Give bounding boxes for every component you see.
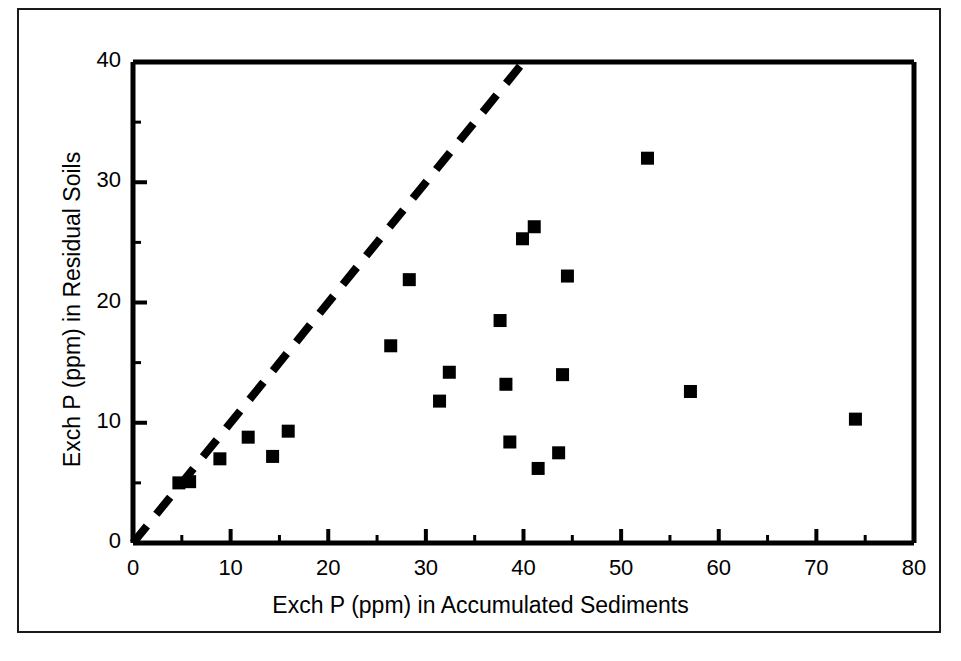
x-tick-label-30: 30 xyxy=(396,555,456,581)
x-tick-label-50: 50 xyxy=(591,555,651,581)
plot-axes xyxy=(133,62,914,543)
data-point-4 xyxy=(266,450,279,463)
data-point-20 xyxy=(684,385,697,398)
x-tick-label-70: 70 xyxy=(786,555,846,581)
figure-container: 01020304050607080010203040 Exch P (ppm) … xyxy=(0,0,961,661)
data-point-18 xyxy=(561,270,574,283)
x-tick-label-20: 20 xyxy=(298,555,358,581)
data-point-16 xyxy=(552,446,565,459)
x-tick-label-40: 40 xyxy=(494,555,554,581)
y-axis-title: Exch P (ppm) in Residual Soils xyxy=(59,50,86,570)
data-point-19 xyxy=(641,152,654,165)
data-point-17 xyxy=(556,368,569,381)
data-points-group xyxy=(172,152,862,490)
x-tick-label-0: 0 xyxy=(103,555,163,581)
data-point-5 xyxy=(282,425,295,438)
data-point-15 xyxy=(532,462,545,475)
data-point-10 xyxy=(494,314,507,327)
data-point-11 xyxy=(499,378,512,391)
data-point-7 xyxy=(403,273,416,286)
data-point-13 xyxy=(516,232,529,245)
data-point-12 xyxy=(503,435,516,448)
data-point-6 xyxy=(384,339,397,352)
reference-line-1to1 xyxy=(133,62,524,543)
data-point-3 xyxy=(242,431,255,444)
x-tick-label-60: 60 xyxy=(689,555,749,581)
data-point-14 xyxy=(528,220,541,233)
data-point-2 xyxy=(213,452,226,465)
data-point-1 xyxy=(183,475,196,488)
reference-line xyxy=(133,62,524,543)
data-point-21 xyxy=(849,413,862,426)
x-tick-label-80: 80 xyxy=(884,555,944,581)
x-axis-title: Exch P (ppm) in Accumulated Sediments xyxy=(0,592,961,619)
data-point-8 xyxy=(433,395,446,408)
x-tick-label-10: 10 xyxy=(201,555,261,581)
data-point-9 xyxy=(443,366,456,379)
